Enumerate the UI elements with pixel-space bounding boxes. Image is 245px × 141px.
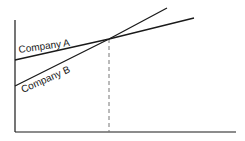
chart: Company A Company B xyxy=(0,0,245,141)
company-b-label: Company B xyxy=(19,63,72,94)
company-a-label: Company A xyxy=(18,37,71,55)
company-a-line xyxy=(15,18,194,60)
